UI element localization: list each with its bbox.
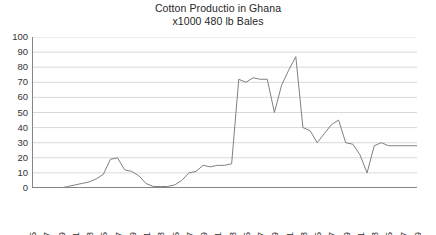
x-axis-tick-label: 2003 bbox=[299, 232, 309, 235]
x-axis-tick-label: 1971 bbox=[71, 232, 81, 235]
y-axis-tick-label: 20 bbox=[0, 153, 28, 163]
cotton-production-chart: Cotton Productio in Ghana x1000 480 lb B… bbox=[0, 0, 436, 235]
plot-svg bbox=[32, 37, 417, 188]
x-axis-tick-label: 1993 bbox=[228, 232, 238, 235]
y-axis-tick-label: 50 bbox=[0, 108, 28, 118]
x-axis-tick-label: 1967 bbox=[42, 232, 52, 235]
x-axis-tick-label: 1991 bbox=[213, 232, 223, 235]
x-axis-tick-label: 2011 bbox=[356, 232, 366, 235]
x-axis-tick-label: 2009 bbox=[342, 232, 352, 235]
y-axis-tick-label: 80 bbox=[0, 62, 28, 72]
x-axis-tick-label: 1989 bbox=[199, 232, 209, 235]
x-axis-tick-label: 1995 bbox=[242, 232, 252, 235]
x-axis-tick-label: 1975 bbox=[99, 232, 109, 235]
y-axis-tick-label: 40 bbox=[0, 123, 28, 133]
x-axis-tick-label: 1969 bbox=[57, 232, 67, 235]
y-axis-tick-labels: 1009080706050403020100 bbox=[0, 37, 28, 188]
y-axis-tick-label: 10 bbox=[0, 168, 28, 178]
y-axis-tick-label: 70 bbox=[0, 77, 28, 87]
chart-subtitle: x1000 480 lb Bales bbox=[0, 15, 436, 28]
x-axis-tick-label: 1977 bbox=[114, 232, 124, 235]
page-title: Cotton Productio in Ghana bbox=[0, 2, 436, 15]
x-axis-tick-label: 2007 bbox=[327, 232, 337, 235]
chart-title-block: Cotton Productio in Ghana x1000 480 lb B… bbox=[0, 2, 436, 28]
x-axis-tick-label: 1985 bbox=[171, 232, 181, 235]
x-axis-tick-label: 2005 bbox=[313, 232, 323, 235]
x-axis-tick-labels: 1965196719691971197319751977197919811983… bbox=[32, 190, 417, 235]
x-axis-tick-label: 1973 bbox=[85, 232, 95, 235]
y-axis-tick-label: 100 bbox=[0, 32, 28, 42]
x-axis-tick-label: 2001 bbox=[285, 232, 295, 235]
x-axis-tick-label: 1965 bbox=[28, 232, 38, 235]
y-axis-tick-label: 90 bbox=[0, 47, 28, 57]
x-axis-tick-label: 1987 bbox=[185, 232, 195, 235]
y-gridlines bbox=[32, 37, 417, 173]
x-axis-tick-label: 2017 bbox=[399, 232, 409, 235]
data-series-line bbox=[32, 57, 417, 188]
y-axis-tick-label: 0 bbox=[0, 183, 28, 193]
x-axis-tick-label: 1999 bbox=[270, 232, 280, 235]
x-axis-tick-label: 2013 bbox=[370, 232, 380, 235]
x-axis-tick-label: 1979 bbox=[128, 232, 138, 235]
x-axis-tick-label: 2015 bbox=[384, 232, 394, 235]
x-axis-tick-label: 2019 bbox=[413, 232, 423, 235]
x-axis-tick-label: 1983 bbox=[156, 232, 166, 235]
x-axis-tick-label: 1997 bbox=[256, 232, 266, 235]
plot-area bbox=[32, 37, 417, 188]
y-axis-tick-label: 60 bbox=[0, 92, 28, 102]
y-axis-tick-label: 30 bbox=[0, 138, 28, 148]
x-axis-tick-label: 1981 bbox=[142, 232, 152, 235]
